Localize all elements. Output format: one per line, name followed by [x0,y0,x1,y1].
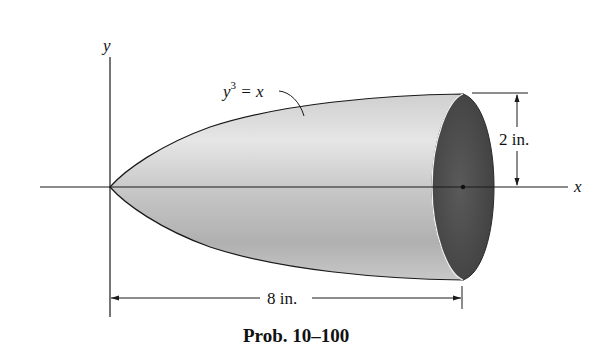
y-axis-label: y [101,36,111,55]
curve-equation-base: y [221,82,231,101]
curve-equation-rest: = x [236,82,264,101]
solid-of-revolution-figure: y x y3 = x 2 in. 8 in. Prob. 10–100 [0,0,615,352]
arrowhead-down [515,178,520,186]
centroid-dot [461,185,465,189]
x-axis-label: x [573,177,582,196]
radius-dimension-label: 2 in. [499,130,529,149]
problem-caption: Prob. 10–100 [243,325,349,346]
arrowhead-up [515,94,520,102]
arrowhead-left [111,296,119,301]
curve-equation-label: y3 = x [221,79,264,101]
length-dimension-label: 8 in. [267,289,297,308]
arrowhead-right [453,296,461,301]
